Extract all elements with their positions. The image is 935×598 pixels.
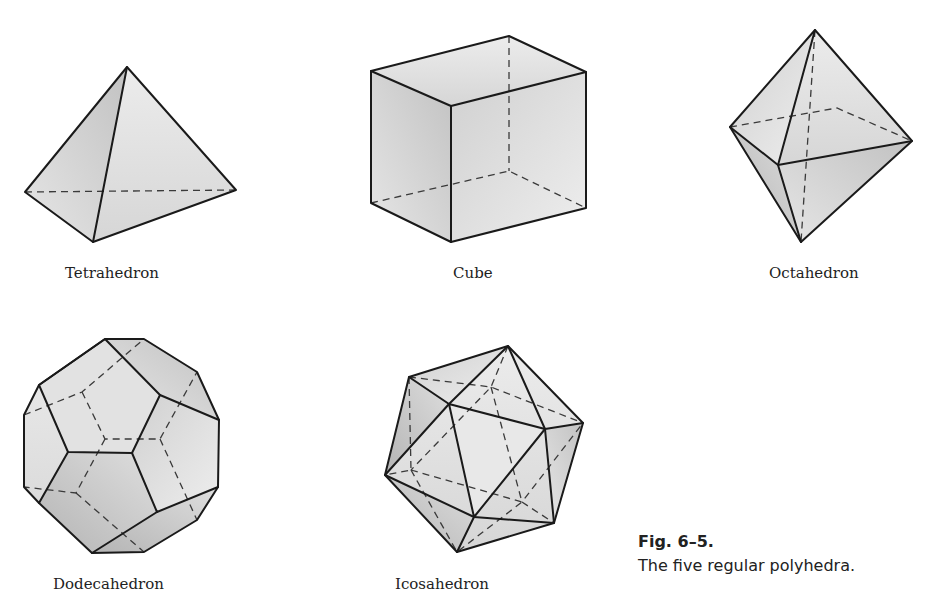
dodecahedron: Dodecahedron xyxy=(24,339,219,593)
dodecahedron-label: Dodecahedron xyxy=(53,575,164,593)
polyhedra-figure: Tetrahedron Cube Octahedron xyxy=(0,0,935,598)
icosahedron-label: Icosahedron xyxy=(395,575,489,593)
cube: Cube xyxy=(371,36,586,282)
tetrahedron-label: Tetrahedron xyxy=(65,264,159,282)
cube-label: Cube xyxy=(453,264,493,282)
icosahedron: Icosahedron xyxy=(385,346,583,593)
figure-number: Fig. 6–5. xyxy=(638,532,714,551)
figure-caption: The five regular polyhedra. xyxy=(638,556,855,575)
octahedron-label: Octahedron xyxy=(769,264,859,282)
tetrahedron: Tetrahedron xyxy=(25,67,236,282)
octahedron: Octahedron xyxy=(730,30,912,282)
